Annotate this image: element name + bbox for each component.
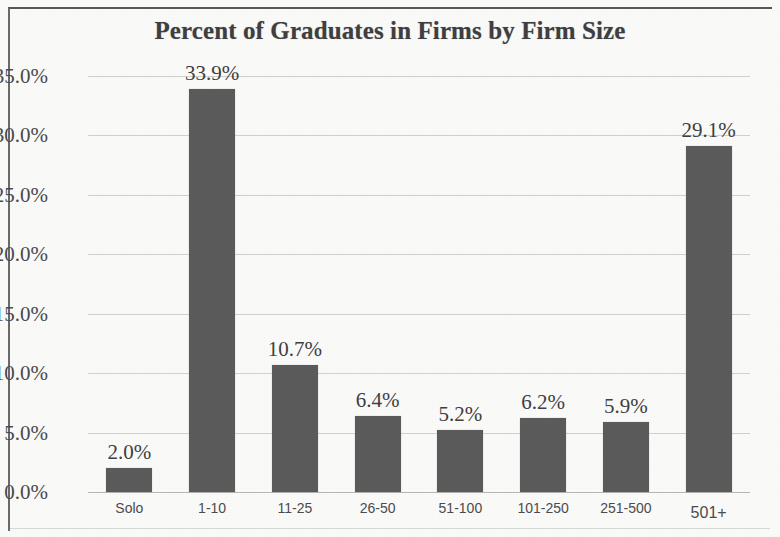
bar-value-label: 2.0%	[108, 440, 152, 465]
bar-series: 2.0%33.9%10.7%6.4%5.2%6.2%5.9%29.1%	[88, 76, 750, 492]
bar[interactable]	[189, 89, 235, 492]
bar[interactable]	[355, 416, 401, 492]
x-axis-tick-label: 101-250	[502, 500, 585, 516]
y-axis-tick-label: 10.0%	[0, 361, 48, 386]
y-axis-tick-label: 0.0%	[0, 480, 48, 505]
bar-slot: 33.9%	[171, 76, 254, 492]
y-axis-tick-label: 35.0%	[0, 64, 48, 89]
bar-slot: 6.2%	[502, 76, 585, 492]
chart-title: Percent of Graduates in Firms by Firm Si…	[0, 17, 780, 45]
bar-slot: 2.0%	[88, 76, 171, 492]
gridline	[88, 492, 750, 493]
bar-slot: 10.7%	[254, 76, 337, 492]
bar-value-label: 5.2%	[439, 402, 483, 427]
y-axis-tick-label: 5.0%	[0, 421, 48, 446]
x-axis-tick-label: Solo	[88, 500, 171, 516]
chart-frame-bottom-rule	[10, 528, 770, 529]
x-axis-tick-label: 501+	[667, 504, 750, 522]
bar-value-label: 10.7%	[268, 337, 322, 362]
y-axis-tick-label: 15.0%	[0, 302, 48, 327]
y-axis-tick-label: 20.0%	[0, 242, 48, 267]
bar-value-label: 6.2%	[521, 390, 565, 415]
bar[interactable]	[272, 365, 318, 492]
bar-slot: 5.9%	[585, 76, 668, 492]
bar-value-label: 6.4%	[356, 388, 400, 413]
y-axis-tick-label: 30.0%	[0, 123, 48, 148]
x-axis-tick-label: 26-50	[336, 500, 419, 516]
plot-area: 35.0%30.0%25.0%20.0%15.0%10.0%5.0%0.0% 2…	[88, 76, 750, 492]
bar[interactable]	[603, 422, 649, 492]
x-axis-tick-labels: Solo1-1011-2526-5051-100101-250251-50050…	[88, 500, 750, 526]
bar-value-label: 33.9%	[185, 61, 239, 86]
bar-value-label: 29.1%	[682, 118, 736, 143]
bar-slot: 29.1%	[667, 76, 750, 492]
x-axis-tick-label: 51-100	[419, 500, 502, 516]
bar[interactable]	[106, 468, 152, 492]
x-axis-tick-label: 251-500	[585, 500, 668, 516]
bar[interactable]	[520, 418, 566, 492]
bar-value-label: 5.9%	[604, 394, 648, 419]
bar[interactable]	[686, 146, 732, 492]
y-axis-tick-label: 25.0%	[0, 183, 48, 208]
bar[interactable]	[437, 430, 483, 492]
x-axis-tick-label: 11-25	[254, 500, 337, 516]
bar-slot: 6.4%	[336, 76, 419, 492]
scanned-page: Percent of Graduates in Firms by Firm Si…	[0, 0, 780, 537]
bar-slot: 5.2%	[419, 76, 502, 492]
x-axis-tick-label: 1-10	[171, 500, 254, 516]
